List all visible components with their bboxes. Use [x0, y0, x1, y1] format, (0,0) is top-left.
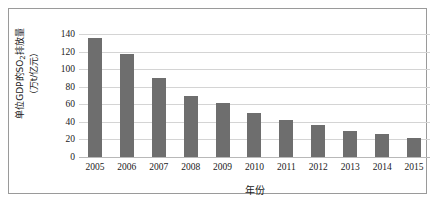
y-axis-tick-label: 80 — [33, 82, 75, 92]
y-axis-title-part1: 单位GDP的SO — [15, 60, 25, 119]
bar-slot — [207, 34, 239, 157]
x-axis-tick-label: 2007 — [149, 162, 168, 172]
bar — [152, 78, 166, 157]
bar-slot — [79, 34, 111, 157]
bar-slot — [366, 34, 398, 157]
bar-slot — [334, 34, 366, 157]
bar-slot — [175, 34, 207, 157]
y-axis-tick-label: 0 — [33, 152, 75, 162]
x-axis-tick-label: 2011 — [277, 162, 296, 172]
bar-slot — [239, 34, 271, 157]
bar — [279, 120, 293, 157]
bar — [343, 131, 357, 157]
bar — [184, 96, 198, 158]
x-axis-tick-label: 2012 — [309, 162, 328, 172]
bar-slot — [111, 34, 143, 157]
bar-series — [79, 34, 430, 157]
bar — [311, 125, 325, 157]
y-axis-tick-label: 140 — [33, 29, 75, 39]
x-axis-title: 年份 — [79, 182, 430, 197]
y-axis-tick-label: 120 — [33, 47, 75, 57]
x-axis-tick-label: 2005 — [85, 162, 104, 172]
bar — [375, 134, 389, 157]
bar-slot — [143, 34, 175, 157]
gridline — [79, 157, 430, 158]
x-axis-tick-label: 2015 — [405, 162, 424, 172]
y-axis-title-subscript: 2 — [19, 55, 27, 59]
bar — [247, 113, 261, 157]
bar — [120, 54, 134, 157]
bar — [407, 138, 421, 157]
chart-figure: 单位GDP的SO2排放量 （万t/亿元） 140120100806040200 … — [0, 0, 441, 210]
y-axis-tick-label: 20 — [33, 134, 75, 144]
y-axis-tick-label: 60 — [33, 99, 75, 109]
bar-slot — [270, 34, 302, 157]
x-axis-tick-label: 2009 — [213, 162, 232, 172]
bar — [216, 103, 230, 157]
y-axis-title-part2: 排放量 — [15, 28, 25, 55]
bar-slot — [302, 34, 334, 157]
bar — [88, 38, 102, 157]
x-axis-tick-label: 2013 — [341, 162, 360, 172]
plot-area: 140120100806040200 200520062007200820092… — [79, 34, 430, 157]
y-axis-tick-label: 40 — [33, 117, 75, 127]
y-axis-tick-label: 100 — [33, 64, 75, 74]
x-axis-tick-label: 2014 — [373, 162, 392, 172]
x-axis-tick-label: 2010 — [245, 162, 264, 172]
x-axis-tick-label: 2006 — [117, 162, 136, 172]
bar-slot — [398, 34, 430, 157]
x-axis-tick-label: 2008 — [181, 162, 200, 172]
chart-frame: 单位GDP的SO2排放量 （万t/亿元） 140120100806040200 … — [8, 8, 427, 194]
